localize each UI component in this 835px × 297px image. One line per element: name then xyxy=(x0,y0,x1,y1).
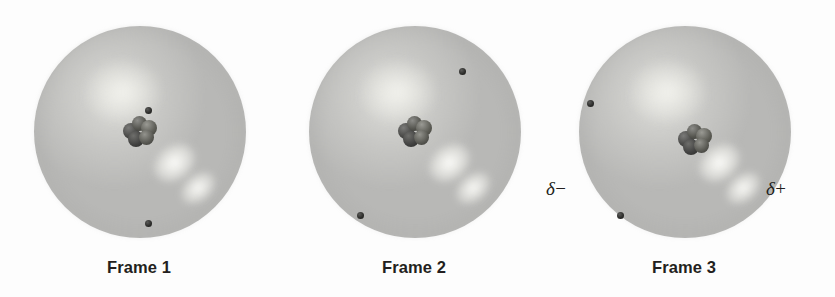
plus-sign: + xyxy=(775,178,786,199)
minus-sign: − xyxy=(555,178,566,199)
frame-3: δ− δ+ Frame 3 xyxy=(545,0,823,297)
partial-positive-label: δ+ xyxy=(766,178,787,200)
nucleon-icon xyxy=(139,130,154,145)
electron-dot xyxy=(459,68,466,75)
sphere-highlight-top-1 xyxy=(85,60,161,124)
delta-symbol: δ xyxy=(546,178,555,199)
dipole-figure: Frame 1 Frame 2 xyxy=(0,0,835,297)
frame-caption: Frame 2 xyxy=(275,258,553,277)
frame-caption: Frame 1 xyxy=(0,258,278,277)
electron-dot xyxy=(145,220,152,227)
frame-1: Frame 1 xyxy=(0,0,278,297)
sphere-highlight-top-2 xyxy=(360,60,436,124)
nucleus-2 xyxy=(398,116,432,148)
electron-dot xyxy=(145,107,152,114)
nucleon-icon xyxy=(694,138,709,153)
delta-symbol: δ xyxy=(766,178,775,199)
nucleus-3 xyxy=(678,124,712,156)
nucleus-1 xyxy=(123,116,157,148)
electron-dot xyxy=(617,212,624,219)
frame-2: Frame 2 xyxy=(275,0,553,297)
partial-negative-label: δ− xyxy=(546,178,567,200)
frame-caption: Frame 3 xyxy=(545,258,823,277)
electron-dot xyxy=(587,100,594,107)
nucleon-icon xyxy=(414,130,429,145)
electron-dot xyxy=(357,212,364,219)
sphere-highlight-top-3 xyxy=(630,60,706,124)
